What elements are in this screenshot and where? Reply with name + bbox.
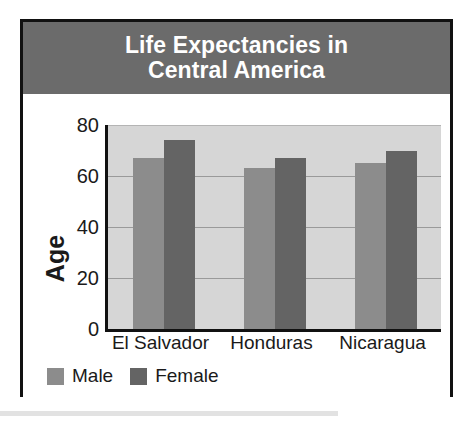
x-axis-tick-nicaragua: Nicaragua bbox=[327, 332, 438, 354]
x-axis-tick-el-salvador: El Salvador bbox=[105, 332, 216, 354]
bar-group-honduras bbox=[219, 125, 330, 329]
y-axis-tick-0: 0 bbox=[88, 318, 99, 341]
legend-swatch-male-icon bbox=[47, 368, 64, 385]
bar-female-nicaragua[interactable] bbox=[386, 151, 417, 330]
bar-groups bbox=[108, 125, 441, 329]
bar-male-nicaragua[interactable] bbox=[355, 163, 386, 329]
legend-label-female: Female bbox=[155, 365, 218, 387]
y-axis-tick-20: 20 bbox=[77, 267, 99, 290]
legend-label-male: Male bbox=[72, 365, 113, 387]
bar-male-el-salvador[interactable] bbox=[133, 158, 164, 329]
chart-legend: Male Female bbox=[47, 365, 219, 387]
bar-female-el-salvador[interactable] bbox=[164, 140, 195, 329]
y-axis-tick-80: 80 bbox=[77, 114, 99, 137]
bar-group-nicaragua bbox=[330, 125, 441, 329]
legend-item-male[interactable]: Male bbox=[47, 365, 113, 387]
x-axis-tick-honduras: Honduras bbox=[216, 332, 327, 354]
chart-body: Age 80 60 40 20 0 bbox=[23, 94, 450, 397]
x-axis-ticks: El Salvador Honduras Nicaragua bbox=[105, 332, 438, 354]
page-bottom-strip bbox=[0, 411, 338, 416]
bar-group-el-salvador bbox=[108, 125, 219, 329]
plot-area bbox=[105, 125, 441, 332]
bar-male-honduras[interactable] bbox=[244, 168, 275, 329]
plot-inner bbox=[108, 125, 441, 329]
chart-page: Life Expectancies in Central America Age… bbox=[0, 0, 475, 424]
y-axis-tick-40: 40 bbox=[77, 216, 99, 239]
legend-item-female[interactable]: Female bbox=[130, 365, 218, 387]
chart-card: Life Expectancies in Central America Age… bbox=[20, 19, 453, 397]
y-axis-tick-60: 60 bbox=[77, 165, 99, 188]
chart-title: Life Expectancies in Central America bbox=[125, 33, 348, 83]
y-axis-ticks: 80 60 40 20 0 bbox=[59, 125, 99, 329]
chart-title-banner: Life Expectancies in Central America bbox=[23, 22, 450, 94]
legend-swatch-female-icon bbox=[130, 368, 147, 385]
bar-female-honduras[interactable] bbox=[275, 158, 306, 329]
